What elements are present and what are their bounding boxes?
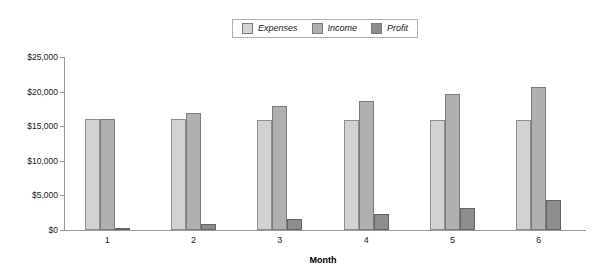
y-axis-tick-label: $20,000	[27, 87, 58, 97]
y-axis-tick-label: $5,000	[32, 190, 58, 200]
bar-group: 6	[496, 57, 582, 230]
bar-expenses[interactable]	[257, 120, 272, 230]
bar-profit[interactable]	[287, 219, 302, 230]
bar-profit[interactable]	[201, 224, 216, 230]
bar-income[interactable]	[100, 119, 115, 230]
y-axis-tick-label: $0	[49, 225, 58, 235]
legend-item-expenses: Expenses	[242, 23, 298, 34]
plot-area: 123456	[64, 57, 582, 230]
bar-group-bars	[64, 57, 150, 230]
y-axis: $0$5,000$10,000$15,000$20,000$25,000	[0, 57, 64, 230]
bar-income[interactable]	[359, 101, 374, 230]
legend-label-expenses: Expenses	[258, 24, 298, 33]
chart-legend: Expenses Income Profit	[232, 19, 418, 38]
legend-item-income: Income	[312, 23, 358, 34]
bar-group-bars	[496, 57, 582, 230]
bar-expenses[interactable]	[516, 120, 531, 230]
x-axis-tick-label: 1	[64, 235, 150, 245]
bar-group: 3	[237, 57, 323, 230]
bar-income[interactable]	[272, 106, 287, 230]
legend-swatch-income	[312, 23, 323, 34]
bar-profit[interactable]	[546, 200, 561, 230]
x-axis-tick-label: 4	[323, 235, 409, 245]
legend-label-profit: Profit	[387, 24, 408, 33]
x-axis-title: Month	[64, 255, 582, 265]
x-axis-tick-label: 5	[409, 235, 495, 245]
y-axis-tick-label: $10,000	[27, 156, 58, 166]
bar-group-bars	[237, 57, 323, 230]
bar-profit[interactable]	[374, 214, 389, 230]
x-axis-tick-label: 6	[496, 235, 582, 245]
legend-swatch-profit	[371, 23, 382, 34]
bar-expenses[interactable]	[430, 120, 445, 230]
bar-group: 2	[150, 57, 236, 230]
bar-profit[interactable]	[115, 228, 130, 230]
bar-expenses[interactable]	[344, 120, 359, 230]
bar-expenses[interactable]	[85, 119, 100, 230]
legend-item-profit: Profit	[371, 23, 408, 34]
bar-group: 1	[64, 57, 150, 230]
bar-group-bars	[323, 57, 409, 230]
bar-chart: Expenses Income Profit $0$5,000$10,000$1…	[0, 0, 598, 276]
x-axis-tick-label: 3	[237, 235, 323, 245]
bar-income[interactable]	[445, 94, 460, 230]
y-axis-tick-label: $15,000	[27, 121, 58, 131]
y-axis-tick-label: $25,000	[27, 52, 58, 62]
bar-group: 5	[409, 57, 495, 230]
x-axis-line	[64, 230, 586, 231]
legend-swatch-expenses	[242, 23, 253, 34]
bar-group-bars	[409, 57, 495, 230]
legend-label-income: Income	[328, 24, 358, 33]
bar-income[interactable]	[186, 113, 201, 230]
x-axis-tick-label: 2	[150, 235, 236, 245]
bar-group-bars	[150, 57, 236, 230]
bar-expenses[interactable]	[171, 119, 186, 230]
bar-income[interactable]	[531, 87, 546, 230]
bar-profit[interactable]	[460, 208, 475, 230]
bar-group: 4	[323, 57, 409, 230]
